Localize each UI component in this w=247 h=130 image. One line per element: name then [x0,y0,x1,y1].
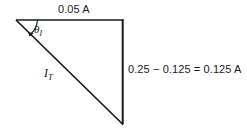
hypotenuse-label: IT [44,67,53,82]
vertical-side-label: 0.25 − 0.125 = 0.125 A [128,64,242,75]
phasor-diagram-figure: 0.05 A 0.25 − 0.125 = 0.125 A IT θI [0,0,247,130]
angle-subscript: I [39,29,42,38]
horizontal-side-label: 0.05 A [58,4,90,15]
angle-label: θI [34,24,42,38]
hypotenuse-line [16,20,123,125]
hypotenuse-subscript: T [48,72,53,82]
